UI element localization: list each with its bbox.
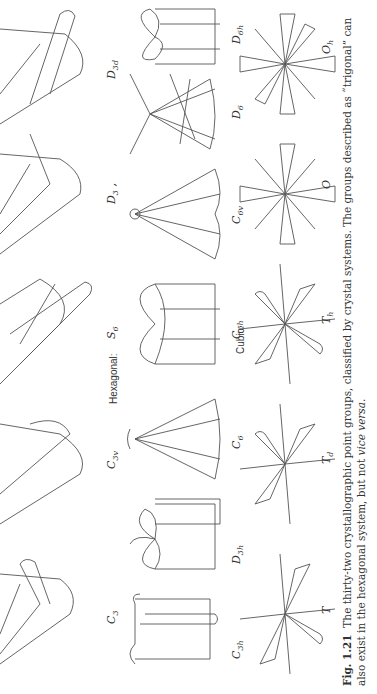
label-c3: C3 bbox=[105, 610, 120, 624]
caption-text: The thirty-two crystallographic point gr… bbox=[341, 18, 367, 686]
label-d3: D3 , bbox=[105, 183, 120, 204]
label-o: O bbox=[320, 180, 335, 189]
figure-d6h bbox=[125, 0, 225, 74]
label-td: Td bbox=[320, 452, 335, 464]
figure-th bbox=[240, 264, 335, 384]
figure-c3h bbox=[125, 584, 225, 674]
label-oh: Oh bbox=[320, 40, 335, 54]
label-d3d: D3d bbox=[105, 60, 120, 79]
label-t: T bbox=[320, 607, 335, 614]
label-th: Th bbox=[320, 312, 335, 325]
figure-d3h bbox=[125, 494, 225, 584]
figure-c6h bbox=[125, 274, 225, 374]
figure-d3d bbox=[0, 0, 100, 124]
caption-number: Fig. 1.21 bbox=[341, 634, 353, 686]
figure-o bbox=[240, 134, 335, 254]
rotated-page: C3 C3v S6 D3 , D3d Hexagonal: C3h D3h C6… bbox=[0, 0, 377, 694]
figure-c3 bbox=[0, 554, 100, 674]
figure-c3v bbox=[0, 404, 100, 524]
section-hexagonal: Hexagonal: bbox=[108, 353, 119, 404]
figure-caption: Fig. 1.21 The thirty-two crystallographi… bbox=[340, 0, 368, 686]
figure-s6 bbox=[0, 264, 100, 394]
label-s6: S6 bbox=[105, 326, 120, 339]
figure-d6 bbox=[120, 69, 220, 159]
figure-t bbox=[240, 554, 335, 674]
label-c3v: C3v bbox=[105, 451, 120, 469]
caption-emphasis: vice versa bbox=[355, 402, 367, 456]
figure-td bbox=[240, 404, 335, 524]
figure-oh bbox=[240, 4, 335, 124]
figure-c6 bbox=[125, 389, 225, 489]
figure-d3 bbox=[0, 124, 100, 254]
figure-c6v bbox=[125, 164, 225, 264]
